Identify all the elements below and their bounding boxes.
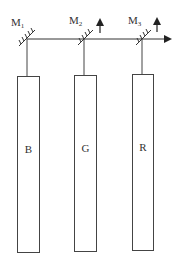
- channel-g: [75, 76, 97, 252]
- mirror-label-m1: M1: [11, 16, 25, 30]
- channel-label-r: R: [139, 141, 147, 153]
- channel-label-g: G: [82, 142, 90, 154]
- mirror-m2: [78, 29, 93, 45]
- channel-label-b: B: [25, 143, 32, 155]
- dichroic-mirror-diagram: M1 M2 M3 B G R: [0, 0, 176, 262]
- mirror-label-m3: M3: [128, 14, 142, 28]
- channel-b: [18, 77, 40, 253]
- channel-r: [133, 75, 154, 251]
- mirror-label-m2: M2: [69, 14, 83, 28]
- mirror-m3: [136, 29, 151, 45]
